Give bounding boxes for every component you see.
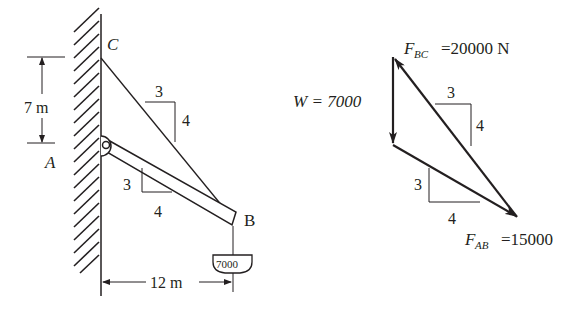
- fbc-subscript: BC: [414, 48, 429, 60]
- fab-subscript: AB: [474, 239, 489, 251]
- dimension-12m: 12 m: [103, 273, 233, 292]
- cable-slope-run: 3: [155, 83, 163, 100]
- dimension-12m-label: 12 m: [150, 274, 183, 291]
- dimension-7m: 7 m: [24, 57, 65, 143]
- hanging-load: 7000: [213, 226, 252, 273]
- point-b-label: B: [244, 211, 255, 230]
- fbc-label: F BC =20000 N: [403, 39, 510, 60]
- point-c-label: C: [107, 35, 119, 54]
- dimension-7m-label: 7 m: [24, 99, 49, 116]
- cable-slope-rise: 4: [182, 112, 190, 129]
- load-weight-label: 7000: [216, 258, 239, 270]
- fbc-slope-rise: 4: [476, 117, 484, 134]
- boom-structure-diagram: 7 m 3 4 3 4 C A B: [24, 8, 255, 296]
- fab-slope-rise: 3: [414, 176, 422, 193]
- force-triangle-diagram: 3 4 3 4 W = 7000 F BC =20000 N F AB =150…: [293, 39, 553, 251]
- boom-slope-run: 4: [154, 203, 162, 220]
- fbc-slope-indicator: 3 4: [435, 84, 484, 146]
- fbc-value: =20000 N: [441, 39, 510, 58]
- cable-bc: [101, 58, 232, 218]
- cable-slope-indicator: 3 4: [145, 83, 190, 142]
- fab-vector: [393, 145, 516, 216]
- fab-slope-run: 4: [448, 210, 456, 227]
- wall: [74, 8, 101, 296]
- wall-hatching: [74, 8, 99, 273]
- point-a-label: A: [44, 153, 56, 172]
- fab-label: F AB =15000: [464, 230, 553, 251]
- boom-slope-rise: 3: [123, 176, 131, 193]
- fbc-slope-run: 3: [447, 84, 455, 101]
- weight-label: W = 7000: [293, 92, 362, 111]
- fbc-vector: [395, 59, 517, 217]
- fab-value: =15000: [501, 230, 553, 249]
- statics-figure: 7 m 3 4 3 4 C A B: [0, 0, 574, 314]
